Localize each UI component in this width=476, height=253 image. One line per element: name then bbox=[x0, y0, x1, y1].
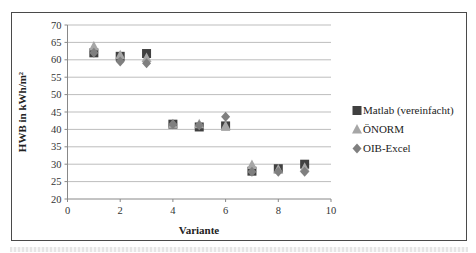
legend-label: OIB-Excel bbox=[363, 142, 411, 154]
x-tick-label: 4 bbox=[170, 205, 176, 216]
x-tick-label: 0 bbox=[65, 205, 70, 216]
legend-triangle-icon bbox=[352, 124, 362, 134]
diamond-marker bbox=[221, 112, 230, 122]
x-tick-label: 2 bbox=[118, 205, 123, 216]
y-tick-label: 40 bbox=[51, 124, 62, 135]
y-tick-label: 50 bbox=[51, 89, 62, 100]
x-tick-label: 8 bbox=[276, 205, 281, 216]
scatter-chart: 20253035404550556065700246810 HWB in kWh… bbox=[0, 0, 476, 253]
y-tick-label: 30 bbox=[51, 159, 62, 170]
y-tick-label: 55 bbox=[51, 72, 62, 83]
data-points bbox=[89, 41, 310, 177]
y-tick-label: 60 bbox=[51, 54, 62, 65]
legend-label: ÖNORM bbox=[363, 123, 404, 135]
legend-square-icon bbox=[353, 106, 362, 115]
x-axis-title: Variante bbox=[179, 224, 220, 236]
y-tick-label: 35 bbox=[51, 141, 62, 152]
legend-label: Matlab (vereinfacht) bbox=[363, 104, 454, 117]
y-tick-label: 65 bbox=[51, 37, 62, 48]
y-tick-label: 70 bbox=[51, 20, 62, 31]
y-axis-title: HWB in kWh/m² bbox=[16, 71, 28, 152]
x-tick-label: 6 bbox=[223, 205, 228, 216]
y-tick-label: 20 bbox=[51, 194, 62, 205]
legend-diamond-icon bbox=[353, 144, 362, 154]
legend: Matlab (vereinfacht)ÖNORMOIB-Excel bbox=[352, 104, 454, 154]
y-tick-label: 25 bbox=[51, 176, 62, 187]
gridlines bbox=[68, 25, 332, 182]
x-tick-label: 10 bbox=[326, 205, 337, 216]
y-tick-label: 45 bbox=[51, 107, 62, 118]
